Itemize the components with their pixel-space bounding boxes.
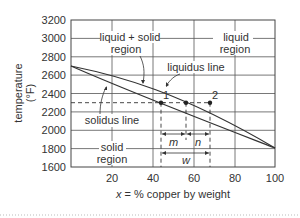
x-tick: 100 xyxy=(266,172,284,184)
y-axis-ticks: 3200 3000 2800 2600 2400 2200 2000 1800 … xyxy=(42,14,66,173)
x-tick: 80 xyxy=(229,172,241,184)
y-tick: 3200 xyxy=(42,14,66,26)
dimension-m: m xyxy=(162,132,185,148)
liquid-solid-leader-arrow xyxy=(140,56,144,83)
point-2-label: 2 xyxy=(212,89,218,101)
point-2 xyxy=(208,101,212,105)
solidus-line-label: solidus line xyxy=(85,114,139,126)
phase-diagram: 3200 3000 2800 2600 2400 2200 2000 1800 … xyxy=(0,0,300,218)
svg-text:n: n xyxy=(195,136,201,148)
y-tick: 1800 xyxy=(42,143,66,155)
y-tick: 1600 xyxy=(42,161,66,173)
y-tick: 2400 xyxy=(42,88,66,100)
y-tick: 2600 xyxy=(42,69,66,81)
x-tick: 60 xyxy=(188,172,200,184)
liquid-solid-region-label: liquid + solid xyxy=(100,31,161,43)
svg-text:w: w xyxy=(182,154,191,166)
point-1 xyxy=(159,101,163,105)
y-tick: 2800 xyxy=(42,51,66,63)
svg-text:region: region xyxy=(111,43,142,55)
y-tick: 3000 xyxy=(42,32,66,44)
svg-text:(°F): (°F) xyxy=(24,84,36,102)
y-tick: 2000 xyxy=(42,124,66,136)
x-axis-label: x = % copper by weight xyxy=(115,188,230,200)
solid-region-label: solid xyxy=(101,141,124,153)
svg-text:region: region xyxy=(220,43,251,55)
liquid-region-label: liquid xyxy=(223,31,249,43)
svg-text:m: m xyxy=(169,136,178,148)
dimension-n: n xyxy=(187,132,209,148)
svg-text:temperature: temperature xyxy=(12,63,24,122)
point-1-label: 1 xyxy=(163,89,169,101)
dimension-w: w xyxy=(162,151,209,166)
svg-text:region: region xyxy=(97,153,128,165)
x-tick: 40 xyxy=(147,172,159,184)
y-tick: 2200 xyxy=(42,106,66,118)
x-axis-ticks: 20 40 60 80 100 xyxy=(106,172,284,184)
liquidus-line-label: liquidus line xyxy=(167,61,224,73)
y-axis-label: temperature (°F) xyxy=(12,63,36,122)
point-mid xyxy=(184,101,188,105)
solidus-leader-arrow xyxy=(100,87,106,114)
x-tick: 20 xyxy=(106,172,118,184)
